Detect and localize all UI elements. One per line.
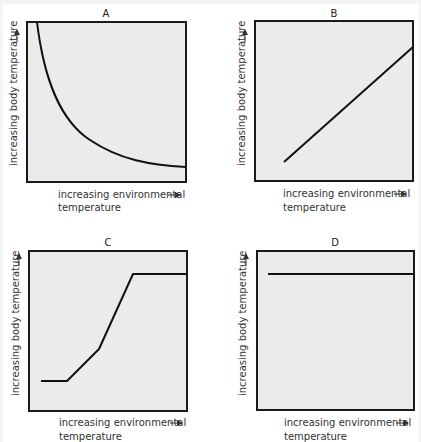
svg-text:increasing body temperature: increasing body temperature	[237, 251, 248, 396]
panel-d-xlabel-line1: increasing environmental	[284, 417, 411, 428]
panel-d-xlabel-line2: temperature	[284, 431, 347, 442]
panel-b-ylabel: increasing body temperature	[236, 21, 247, 166]
panel-c-xlabel-line2: temperature	[59, 431, 122, 442]
figure-canvas: A increasing body temperature increasing…	[0, 0, 421, 442]
panel-b-plot-area	[255, 21, 413, 181]
panel-d-title: D	[331, 237, 339, 248]
panel-b: B increasing body temperature increasing…	[236, 8, 413, 213]
svg-text:increasing body temperature: increasing body temperature	[8, 21, 19, 166]
svg-text:increasing body temperature: increasing body temperature	[236, 21, 247, 166]
panel-d-ylabel: increasing body temperature	[237, 251, 248, 396]
panel-c-xlabel-line1: increasing environmental	[59, 417, 186, 428]
panel-a: A increasing body temperature increasing…	[8, 8, 186, 213]
panel-a-plot-area	[27, 22, 186, 182]
panel-a-title: A	[103, 8, 110, 19]
panel-d: D increasing body temperature increasing…	[237, 237, 414, 442]
panel-a-ylabel: increasing body temperature	[8, 21, 19, 166]
panel-b-xlabel-line2: temperature	[283, 202, 346, 213]
panel-c: C increasing body temperature increasing…	[10, 237, 187, 442]
panel-c-ylabel: increasing body temperature	[10, 251, 21, 396]
panel-a-xlabel-line2: temperature	[58, 202, 121, 213]
panel-c-title: C	[105, 237, 112, 248]
panel-b-xlabel-line1: increasing environmental	[283, 188, 410, 199]
panel-a-xlabel-line1: increasing environmental	[58, 189, 185, 200]
svg-text:increasing body temperature: increasing body temperature	[10, 251, 21, 396]
panel-b-title: B	[331, 8, 338, 19]
